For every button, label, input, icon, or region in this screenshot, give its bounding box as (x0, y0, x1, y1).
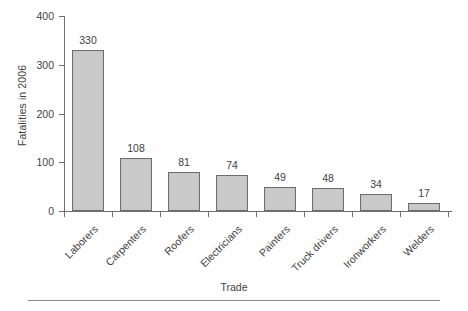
bar-truck-drivers[interactable] (312, 188, 344, 211)
y-tick-1 (59, 162, 64, 163)
x-tick-8 (448, 212, 449, 217)
x-tick-0 (64, 212, 65, 217)
bar-laborers[interactable] (72, 50, 104, 211)
bar-value-roofers: 81 (164, 157, 204, 168)
y-axis-title: Fatalities in 2006 (16, 0, 32, 211)
x-tick-1 (112, 212, 113, 217)
y-tick-label-1: 100 (18, 157, 54, 168)
y-tick-3 (59, 65, 64, 66)
bar-value-truck-drivers: 48 (308, 173, 348, 184)
x-axis-title: Trade (0, 281, 468, 293)
y-tick-label-3: 300 (18, 60, 54, 71)
x-axis-line (64, 211, 452, 212)
x-tick-3 (208, 212, 209, 217)
bar-roofers[interactable] (168, 172, 200, 211)
bar-value-carpenters: 108 (116, 143, 156, 154)
bar-value-painters: 49 (260, 172, 300, 183)
bar-value-welders: 17 (404, 188, 444, 199)
bar-painters[interactable] (264, 187, 296, 211)
bar-chart-figure: Fatalities in 2006 0 100 200 300 400 330… (0, 0, 468, 311)
bar-welders[interactable] (408, 203, 440, 211)
y-tick-label-4: 400 (18, 11, 54, 22)
y-tick-label-0: 0 (18, 206, 54, 217)
bar-carpenters[interactable] (120, 158, 152, 211)
bar-value-electricians: 74 (212, 160, 252, 171)
y-tick-2 (59, 114, 64, 115)
x-tick-7 (400, 212, 401, 217)
y-tick-4 (59, 16, 64, 17)
bar-value-laborers: 330 (68, 35, 108, 46)
footer-divider (28, 300, 440, 301)
y-tick-label-2: 200 (18, 109, 54, 120)
y-axis-line (64, 16, 65, 212)
x-tick-2 (160, 212, 161, 217)
x-tick-5 (304, 212, 305, 217)
bar-electricians[interactable] (216, 175, 248, 211)
bar-ironworkers[interactable] (360, 194, 392, 211)
x-tick-6 (352, 212, 353, 217)
x-tick-4 (256, 212, 257, 217)
bar-value-ironworkers: 34 (356, 179, 396, 190)
